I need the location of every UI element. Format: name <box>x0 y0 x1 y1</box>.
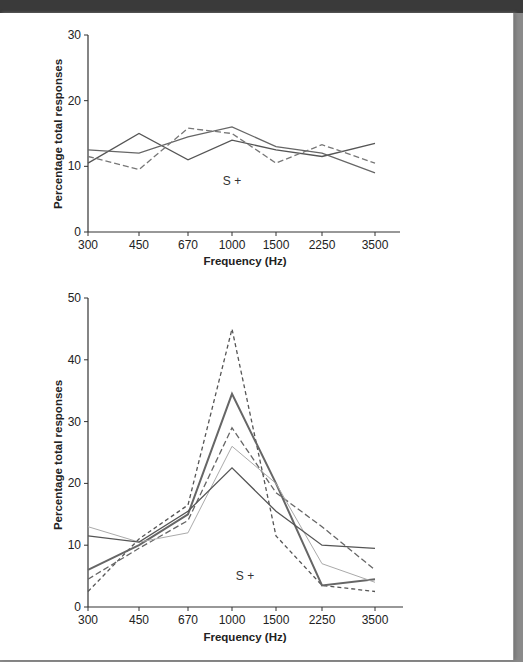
x-tick-label: 300 <box>78 238 98 252</box>
x-tick-label: 450 <box>129 238 149 252</box>
y-tick-label: 0 <box>74 600 81 614</box>
series-line <box>88 446 375 582</box>
chart-top: 01020303004506701000150022503500Frequenc… <box>52 28 400 267</box>
y-tick-label: 30 <box>68 415 82 429</box>
x-tick-label: 1500 <box>263 613 290 627</box>
x-tick-label: 2250 <box>309 238 336 252</box>
series-line <box>88 468 375 548</box>
y-axis-label: Percentage total responses <box>52 59 64 209</box>
x-tick-label: 1500 <box>263 238 290 252</box>
y-tick-label: 0 <box>74 225 81 239</box>
x-tick-label: 1000 <box>219 613 246 627</box>
x-tick-label: 300 <box>78 613 98 627</box>
series-line <box>88 128 375 169</box>
x-tick-label: 450 <box>129 613 149 627</box>
y-tick-label: 30 <box>68 28 82 42</box>
s-plus-annotation: S + <box>223 174 241 188</box>
x-tick-label: 2250 <box>309 613 336 627</box>
y-tick-label: 20 <box>68 476 82 490</box>
x-tick-label: 670 <box>178 238 198 252</box>
y-tick-label: 40 <box>68 353 82 367</box>
x-axis-label: Frequency (Hz) <box>203 631 286 643</box>
charts: 01020303004506701000150022503500Frequenc… <box>0 0 523 662</box>
chart-bottom: 010203040503004506701000150022503500Freq… <box>52 291 403 643</box>
y-tick-label: 10 <box>68 538 82 552</box>
y-tick-label: 10 <box>68 159 82 173</box>
series-line <box>88 428 375 579</box>
x-tick-label: 3500 <box>362 613 389 627</box>
series-line <box>88 127 375 173</box>
x-axis-label: Frequency (Hz) <box>203 255 286 267</box>
y-tick-label: 20 <box>68 94 82 108</box>
x-tick-label: 3500 <box>362 238 389 252</box>
x-tick-label: 1000 <box>219 238 246 252</box>
x-tick-label: 670 <box>178 613 198 627</box>
series-line <box>88 329 375 592</box>
series-line <box>88 394 375 586</box>
y-tick-label: 50 <box>68 291 82 305</box>
y-axis-label: Percentage total responses <box>52 380 64 530</box>
s-plus-annotation: S + <box>236 569 254 583</box>
